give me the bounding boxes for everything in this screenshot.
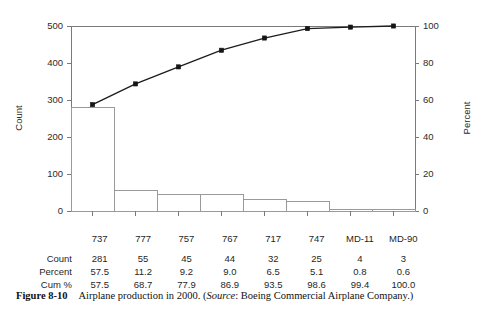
- plot-frame: [71, 26, 415, 211]
- table-cell: 0.8: [338, 265, 381, 278]
- y2-tick-label: 60: [423, 94, 434, 105]
- right-axis: 020406080100: [415, 20, 439, 216]
- cumulative-marker: [391, 24, 395, 28]
- y-tick-label: 0: [58, 205, 63, 216]
- cumulative-marker: [176, 65, 180, 69]
- x-tick-label: 757: [165, 232, 208, 252]
- table-cell: 25: [295, 252, 338, 265]
- figure-number: Figure 8-10: [16, 290, 67, 301]
- y2-tick-label: 80: [423, 57, 434, 68]
- bar: [71, 107, 114, 211]
- table-header-row: 737777757767717747MD-11MD-90: [0, 232, 425, 252]
- table-cell: 281: [78, 252, 121, 265]
- x-tick-label: MD-90: [382, 232, 425, 252]
- cumulative-marker: [262, 36, 266, 40]
- x-axis-ticks: [93, 211, 394, 216]
- cumulative-marker: [133, 82, 137, 86]
- y-tick-label: 300: [47, 94, 63, 105]
- table-cell: 9.2: [165, 265, 208, 278]
- x-tick-label: 777: [121, 232, 164, 252]
- pareto-data-table: 737777757767717747MD-11MD-90Count2815545…: [0, 232, 492, 291]
- caption-tail-text: : Boeing Commercial Airplane Company.): [235, 290, 413, 301]
- table-cell: 57.5: [78, 265, 121, 278]
- pareto-chart-svg: Count Percent 0100200300400500 020406080…: [0, 0, 492, 232]
- bar: [114, 191, 157, 211]
- y2-tick-label: 100: [423, 20, 439, 31]
- y2-tick-label: 20: [423, 168, 434, 179]
- y-tick-label: 500: [47, 20, 63, 31]
- cumulative-marker: [219, 48, 223, 52]
- data-table: 737777757767717747MD-11MD-90Count2815545…: [0, 232, 425, 291]
- y2-tick-label: 40: [423, 131, 434, 142]
- bar: [157, 194, 200, 211]
- y2-tick-label: 0: [423, 205, 428, 216]
- left-axis: 0100200300400500: [47, 20, 71, 216]
- y-axis-title-count: Count: [13, 105, 24, 131]
- table-row: Count281554544322543: [0, 252, 425, 265]
- figure-caption: Figure 8-10Airplane production in 2000. …: [16, 289, 486, 302]
- caption-main-text: Airplane production in 2000. (: [78, 290, 206, 301]
- table-cell: 55: [121, 252, 164, 265]
- table-cell: 9.0: [208, 265, 251, 278]
- bar: [329, 210, 372, 211]
- table-cell: 0.6: [382, 265, 425, 278]
- table-cell: 6.5: [252, 265, 295, 278]
- table-cell: 11.2: [121, 265, 164, 278]
- figure-container: Count Percent 0100200300400500 020406080…: [0, 0, 492, 311]
- bar: [372, 210, 415, 211]
- cumulative-percent-line: [93, 26, 394, 105]
- table-row-label: Percent: [0, 265, 78, 278]
- table-header-corner: [0, 232, 78, 252]
- table-cell: 5.1: [295, 265, 338, 278]
- table-row: Percent57.511.29.29.06.55.10.80.6: [0, 265, 425, 278]
- cumulative-marker: [305, 26, 309, 30]
- x-tick-label: 747: [295, 232, 338, 252]
- table-cell: 44: [208, 252, 251, 265]
- bar: [286, 202, 329, 211]
- x-tick-label: 767: [208, 232, 251, 252]
- y-tick-label: 200: [47, 131, 63, 142]
- caption-source-label: Source: [206, 290, 235, 301]
- cumulative-marker: [90, 103, 94, 107]
- bar: [243, 199, 286, 211]
- y-tick-label: 400: [47, 57, 63, 68]
- table-cell: 45: [165, 252, 208, 265]
- table-row-label: Count: [0, 252, 78, 265]
- pareto-chart: Count Percent 0100200300400500 020406080…: [0, 0, 492, 232]
- table-cell: 3: [382, 252, 425, 265]
- table-cell: 4: [338, 252, 381, 265]
- table-cell: 32: [252, 252, 295, 265]
- bar: [200, 195, 243, 211]
- cumulative-percent-markers: [90, 24, 395, 107]
- cumulative-marker: [348, 25, 352, 29]
- x-tick-label: 717: [252, 232, 295, 252]
- x-tick-label: 737: [78, 232, 121, 252]
- y-tick-label: 100: [47, 168, 63, 179]
- x-tick-label: MD-11: [338, 232, 381, 252]
- bar-series-count: [71, 107, 415, 211]
- y2-axis-title-percent: Percent: [461, 101, 472, 134]
